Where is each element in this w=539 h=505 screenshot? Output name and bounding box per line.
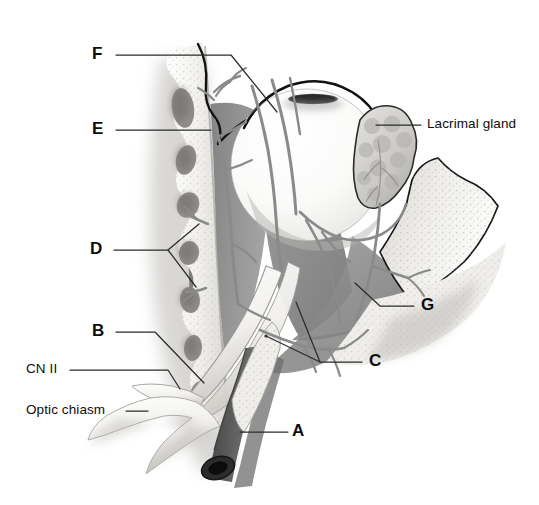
label-B: B xyxy=(92,322,104,339)
label-lacrimal-gland: Lacrimal gland xyxy=(427,117,516,131)
label-C: C xyxy=(369,352,381,369)
label-optic-chiasm: Optic chiasm xyxy=(26,403,105,417)
label-cn-ii: CN II xyxy=(26,362,57,376)
leader-endpoints xyxy=(264,334,267,337)
label-D: D xyxy=(90,240,102,257)
anatomy-illustration xyxy=(0,0,539,505)
label-A: A xyxy=(292,422,304,439)
label-F: F xyxy=(92,45,102,62)
label-G: G xyxy=(421,296,434,313)
label-E: E xyxy=(92,120,103,137)
figure-canvas: F E D B A C G CN II Optic chiasm Lacrima… xyxy=(0,0,539,505)
